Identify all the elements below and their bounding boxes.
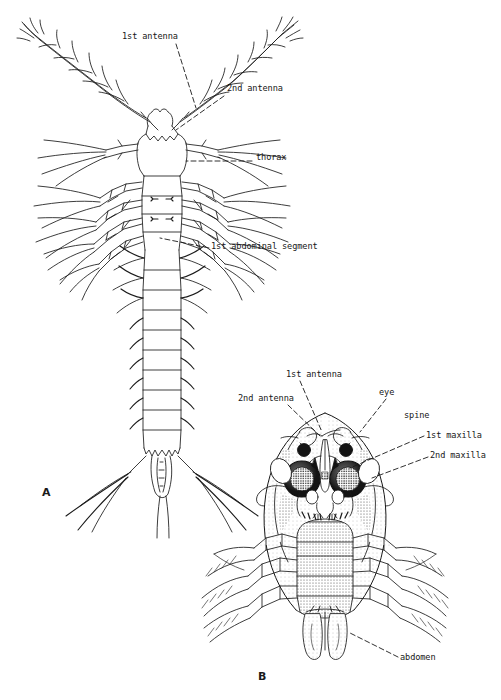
panel-letter-b: B xyxy=(258,670,266,683)
anatomy-label-2nd-antenna: 2nd antenna xyxy=(238,393,294,403)
leader-line-2nd-maxilla xyxy=(372,457,428,478)
anatomy-label-abdomen: abdomen xyxy=(400,652,436,662)
panel-a-specimen xyxy=(17,17,303,538)
panel-b-abdomen xyxy=(303,606,347,659)
leader-line-2nd-antenna xyxy=(176,96,224,130)
anatomy-label-1st-abdominal-segment: 1st abdominal segment xyxy=(211,241,318,251)
anatomy-label-spine: spine xyxy=(404,410,429,420)
telson-and-caudal-rami xyxy=(66,448,258,538)
panel-letter-a: A xyxy=(42,486,51,499)
anatomy-label-2nd-maxilla: 2nd maxilla xyxy=(430,450,486,460)
panel-b-thorax xyxy=(297,514,353,618)
leader-line-eye xyxy=(360,399,386,432)
panel-b-specimen xyxy=(202,413,448,659)
anatomy-label-2nd-antenna: 2nd antenna xyxy=(227,83,283,93)
illustration-svg xyxy=(0,0,501,700)
anatomy-label-eye: eye xyxy=(379,387,394,397)
anatomy-label-1st-maxilla: 1st maxilla xyxy=(426,430,482,440)
leader-line-abdomen xyxy=(348,632,398,657)
left-thoracic-limbs xyxy=(34,182,143,300)
anatomy-label-1st-antenna: 1st antenna xyxy=(122,31,178,41)
second-antennae xyxy=(38,140,286,186)
thorax xyxy=(142,176,182,250)
abdomen-segments xyxy=(113,246,211,448)
right-first-antenna xyxy=(172,17,303,130)
anatomy-label-thorax: thorax xyxy=(256,152,286,162)
figure-plate: 1st antenna2nd antennathorax1st abdomina… xyxy=(0,0,501,700)
leader-line-1st-abdominal-segment xyxy=(160,238,209,248)
anatomy-label-1st-antenna: 1st antenna xyxy=(286,369,342,379)
leader-line-1st-antenna xyxy=(176,44,196,108)
